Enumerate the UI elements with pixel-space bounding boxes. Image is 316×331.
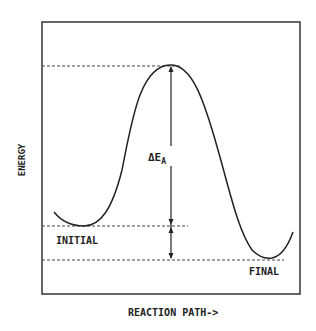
arrowhead-down-icon (169, 219, 174, 225)
activation-subscript: A (161, 157, 166, 166)
arrowhead-up-icon (169, 227, 174, 233)
arrowhead-up-icon (169, 66, 174, 72)
arrowhead-down-icon (169, 253, 174, 259)
y-axis-label: ENERGY (17, 143, 27, 176)
energy-diagram: ΔEA INITIAL FINAL REACTION PATH-> ENERGY (0, 0, 316, 331)
initial-label: INITIAL (56, 235, 98, 246)
energy-curve (54, 65, 293, 258)
activation-energy-label: ΔEA (148, 151, 166, 166)
x-axis-label: REACTION PATH-> (128, 307, 218, 318)
final-label: FINAL (249, 266, 279, 277)
